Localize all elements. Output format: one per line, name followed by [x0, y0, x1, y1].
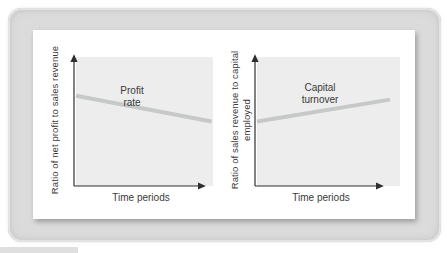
- y-axis-label-line: employed: [241, 51, 253, 190]
- plot-area: [257, 57, 400, 186]
- y-axis-label: Ratio of net profit to sales revenue: [49, 46, 61, 194]
- y-axis-label: Ratio of sales revenue to capital employ…: [229, 51, 253, 190]
- figure-page: { "figure": { "text_color": "#3a3a3a", "…: [0, 0, 447, 253]
- y-axis-label-line: Ratio of sales revenue to capital: [229, 51, 241, 190]
- series-label-capital-turnover: Capital turnover: [302, 82, 339, 105]
- series-label-line: rate: [120, 96, 143, 108]
- figure-panel: Ratio of net profit to sales revenue Pro…: [33, 30, 415, 219]
- series-label-profit-rate: Profit rate: [120, 85, 143, 108]
- series-label-line: Capital: [302, 82, 339, 94]
- cropped-caption-tab: [0, 247, 78, 253]
- x-axis-label: Time periods: [292, 192, 349, 203]
- chart-profit-rate: Ratio of net profit to sales revenue Pro…: [33, 30, 224, 219]
- x-axis-label: Time periods: [112, 192, 169, 203]
- y-axis-label-line: Ratio of net profit to sales revenue: [49, 46, 61, 194]
- chart-capital-turnover: Ratio of sales revenue to capital employ…: [224, 30, 415, 219]
- plot-area: [76, 57, 213, 186]
- series-label-line: turnover: [302, 93, 339, 105]
- series-label-line: Profit: [120, 85, 143, 97]
